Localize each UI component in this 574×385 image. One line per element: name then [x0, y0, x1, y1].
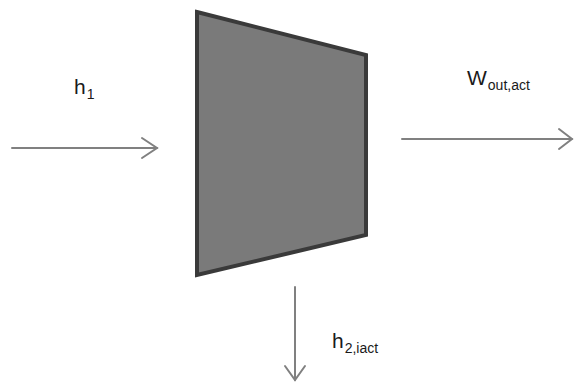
turbine-shape: [197, 12, 366, 275]
work-output-arrow: [402, 129, 572, 149]
work-output-symbol: W: [467, 66, 487, 89]
outlet-enthalpy-subscript: 2,iact: [345, 340, 378, 356]
work-output-subscript: out,act: [488, 77, 530, 93]
inlet-enthalpy-symbol: h: [74, 75, 86, 98]
inlet-enthalpy-subscript: 1: [87, 86, 95, 102]
outlet-arrow: [285, 287, 305, 380]
outlet-enthalpy-label: h2,iact: [332, 330, 378, 351]
diagram-canvas: h1 Wout,act h2,iact: [0, 0, 574, 385]
inlet-enthalpy-label: h1: [74, 76, 94, 97]
work-output-label: Wout,act: [467, 67, 530, 88]
diagram-svg: [0, 0, 574, 385]
outlet-enthalpy-symbol: h: [332, 329, 344, 352]
inlet-arrow: [12, 138, 157, 158]
